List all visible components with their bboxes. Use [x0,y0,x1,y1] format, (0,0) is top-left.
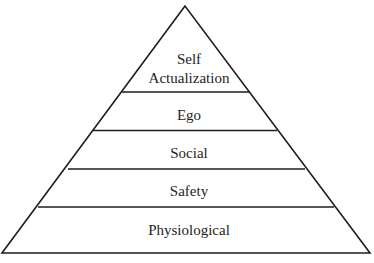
level-label-line2: Actualization [149,69,230,88]
level-physiological: Physiological [148,221,230,240]
level-ego: Ego [177,106,201,125]
level-self-actualization: Self Actualization [149,50,230,88]
pyramid-diagram: Self Actualization Ego Social Safety Phy… [0,0,374,263]
level-social: Social [170,144,208,163]
level-label-line1: Self [149,50,230,69]
pyramid-outline [2,6,370,253]
level-safety: Safety [170,182,208,201]
